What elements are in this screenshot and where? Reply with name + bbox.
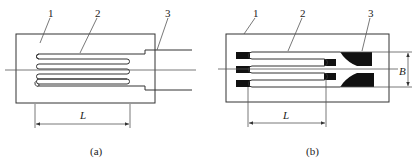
figure-a-wire-gauge: 1 2 3 L (a): [5, 7, 196, 158]
dimension-L-b: L: [282, 109, 289, 121]
callout-1-a: 1: [48, 7, 54, 19]
figure-b-foil-gauge: B 1 2 3 L (b): [218, 7, 412, 158]
lead-tab-top-b: [340, 52, 372, 66]
caption-a: (a): [90, 145, 103, 158]
callout-3-b: 3: [368, 7, 374, 19]
callout-2-b: 2: [300, 7, 306, 19]
substrate-b: [226, 34, 389, 102]
dimension-B-b: B: [399, 65, 406, 77]
lead-tab-bottom-b: [340, 73, 374, 87]
callout-3-a: 3: [165, 7, 171, 19]
callout-2-a: 2: [95, 7, 101, 19]
strain-gauge-diagram: 1 2 3 L (a): [0, 0, 418, 165]
dimension-L-a: L: [79, 109, 86, 121]
caption-b: (b): [306, 145, 319, 158]
callout-1-b: 1: [253, 7, 259, 19]
